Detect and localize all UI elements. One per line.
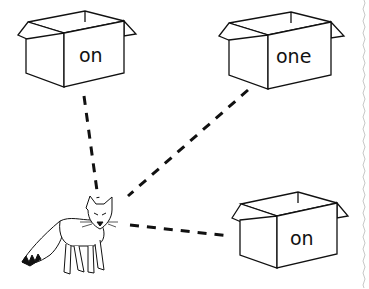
box-bottom-right[interactable]: on — [232, 192, 348, 268]
worksheet-scene: on one on — [0, 0, 369, 289]
connector-top-left — [84, 96, 98, 198]
connector-top-right — [128, 90, 248, 196]
box-top-right[interactable]: one — [219, 12, 344, 89]
box-word: on — [290, 227, 314, 249]
box-top-left[interactable]: on — [18, 11, 136, 87]
wavy-border — [363, 0, 365, 288]
box-word: on — [79, 44, 103, 66]
box-word: one — [276, 45, 311, 67]
fox-illustration — [22, 196, 118, 274]
connector-bottom-right — [130, 225, 230, 236]
